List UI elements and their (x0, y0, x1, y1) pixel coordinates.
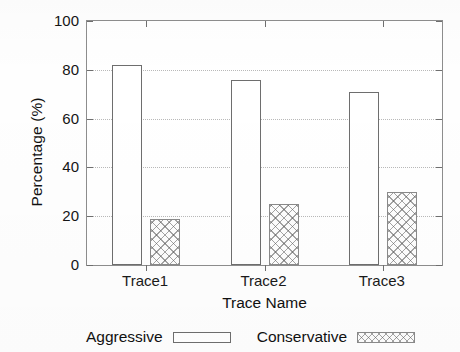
x-axis-tick-label: Trace3 (327, 272, 437, 289)
chart-legend: Aggressive Conservative (86, 326, 456, 348)
y-axis-tick-label: 20 (33, 207, 79, 224)
y-axis-tick (436, 167, 442, 168)
y-axis-tick (436, 21, 442, 22)
y-axis-tick (436, 265, 442, 266)
x-axis-tick (383, 21, 384, 27)
legend-label-conservative: Conservative (257, 328, 347, 346)
bar-chart-figure: Percentage (%) Trace Name Aggressive Con… (0, 0, 460, 352)
legend-swatch-conservative-icon (357, 332, 415, 343)
y-axis-tick (436, 70, 442, 71)
legend-label-aggressive: Aggressive (86, 328, 163, 346)
y-axis-tick-label: 80 (33, 60, 79, 77)
plot-area (86, 20, 443, 266)
legend-entry-aggressive[interactable]: Aggressive (86, 328, 231, 346)
x-axis-tick-label: Trace1 (90, 272, 200, 289)
x-axis-tick (146, 21, 147, 27)
x-axis-tick (265, 265, 266, 271)
y-axis-tick (436, 216, 442, 217)
y-axis-tick (87, 216, 93, 217)
x-axis-title: Trace Name (86, 294, 443, 312)
x-axis-tick (265, 21, 266, 27)
y-axis-tick (87, 21, 93, 22)
x-axis-tick-label: Trace2 (209, 272, 319, 289)
y-axis-tick (436, 119, 442, 120)
y-axis-tick-label: 0 (33, 256, 79, 273)
x-axis-tick (383, 265, 384, 271)
y-axis-tick (87, 70, 93, 71)
legend-entry-conservative[interactable]: Conservative (257, 328, 415, 346)
y-axis-tick-label: 60 (33, 109, 79, 126)
y-axis-tick (87, 167, 93, 168)
legend-swatch-aggressive-icon (173, 332, 231, 343)
bar-aggressive-trace1 (112, 65, 142, 265)
bar-conservative-trace2 (269, 204, 299, 265)
bar-aggressive-trace3 (349, 92, 379, 265)
y-axis-tick (87, 119, 93, 120)
bar-conservative-trace1 (150, 219, 180, 265)
y-axis-tick-label: 100 (33, 12, 79, 29)
y-axis-tick-label: 40 (33, 158, 79, 175)
bar-aggressive-trace2 (231, 80, 261, 265)
bar-conservative-trace3 (387, 192, 417, 265)
y-axis-tick (87, 265, 93, 266)
x-axis-tick (146, 265, 147, 271)
